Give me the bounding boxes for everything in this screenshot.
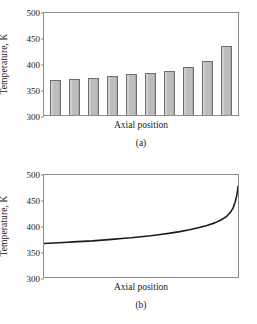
plot-inner-a [44, 13, 238, 115]
y-tick-label: 400 [27, 223, 41, 232]
curve-path [44, 186, 238, 243]
bar [69, 79, 80, 115]
y-tick-mark [41, 91, 44, 92]
bar [126, 74, 137, 115]
y-tick-label: 350 [27, 87, 41, 96]
y-tick-label: 300 [27, 275, 41, 284]
bar [88, 78, 99, 115]
x-axis-title-a: Axial position [43, 120, 239, 130]
figure: Temperature, K 300350400450500 Axial pos… [0, 0, 257, 324]
bar [221, 46, 232, 115]
bar-series [44, 13, 238, 115]
y-tick-mark [41, 279, 44, 280]
bar [50, 80, 61, 115]
y-tick-label: 500 [27, 9, 41, 18]
bar [164, 71, 175, 115]
y-tick-label: 400 [27, 61, 41, 70]
y-tick-label: 450 [27, 35, 41, 44]
bar [145, 73, 156, 115]
y-tick-mark [41, 13, 44, 14]
panel-a: Temperature, K 300350400450500 Axial pos… [0, 0, 257, 162]
y-tick-label: 450 [27, 197, 41, 206]
y-tick-mark [41, 39, 44, 40]
y-tick-mark [41, 117, 44, 118]
y-tick-mark [41, 65, 44, 66]
y-tick-mark [41, 201, 44, 202]
bar [202, 61, 213, 115]
y-tick-mark [41, 253, 44, 254]
plot-area-b: 300350400450500 [43, 174, 239, 278]
y-tick-label: 500 [27, 171, 41, 180]
x-axis-title-b: Axial position [43, 282, 239, 292]
plot-inner-b [44, 175, 238, 277]
y-axis-title-b: Temperature, K [0, 196, 9, 257]
temperature-curve [44, 175, 238, 277]
panel-caption-b: (b) [43, 300, 239, 310]
y-tick-mark [41, 227, 44, 228]
y-tick-mark [41, 175, 44, 176]
y-tick-label: 300 [27, 113, 41, 122]
y-tick-label: 350 [27, 249, 41, 258]
y-axis-title-a: Temperature, K [0, 34, 9, 95]
bar [183, 67, 194, 115]
panel-caption-a: (a) [43, 138, 239, 148]
bar [107, 76, 118, 115]
panel-b: Temperature, K 300350400450500 Axial pos… [0, 162, 257, 324]
plot-area-a: 300350400450500 [43, 12, 239, 116]
